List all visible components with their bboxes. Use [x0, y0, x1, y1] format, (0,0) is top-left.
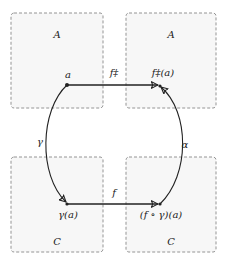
node-dot-a	[65, 83, 69, 87]
arrow-label-alpha: α	[182, 140, 189, 150]
arrow-label-f-dagger: f‡	[110, 68, 119, 78]
node-label-f-gamma-a: (f ∘ γ)(a)	[140, 210, 183, 220]
node-label-a: a	[65, 70, 71, 80]
box-top-right-domain-a	[126, 13, 216, 108]
arrow-label-f: f	[112, 188, 116, 198]
box-label-bottom-right: C	[167, 237, 175, 247]
diagram-canvas	[0, 0, 228, 262]
node-label-f-dagger-a: f‡(a)	[152, 68, 174, 78]
box-label-top-left: A	[53, 30, 60, 40]
node-dot-f-gamma-a	[158, 202, 161, 205]
node-dot-gamma-a	[65, 202, 68, 205]
commutative-diagram: A A C C a f‡(a) γ(a) (f ∘ γ)(a) f‡ f γ α	[0, 0, 228, 262]
node-dot-f-dagger-a	[158, 84, 161, 87]
box-label-bottom-left: C	[53, 237, 61, 247]
box-label-top-right: A	[167, 30, 174, 40]
node-label-gamma-a: γ(a)	[58, 210, 78, 220]
box-top-left-domain-a	[11, 13, 103, 108]
arrow-label-gamma: γ	[37, 137, 43, 147]
